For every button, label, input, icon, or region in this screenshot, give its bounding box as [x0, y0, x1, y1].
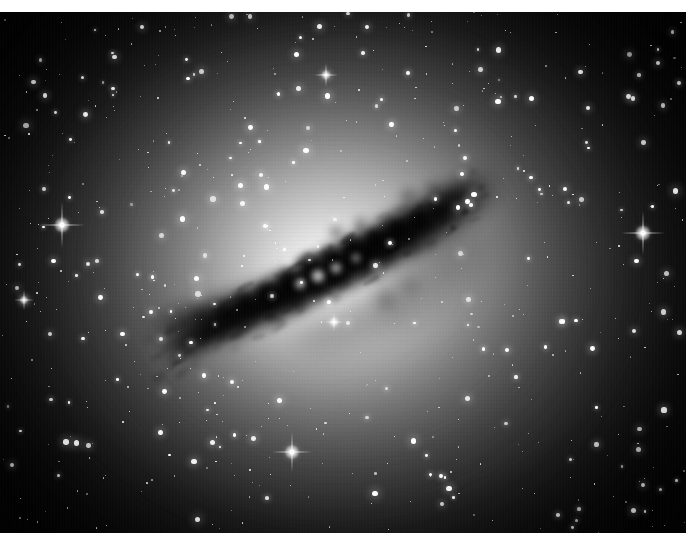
star	[178, 354, 181, 357]
star	[203, 253, 208, 258]
star	[175, 318, 176, 319]
star	[236, 309, 237, 310]
dust-filament	[290, 271, 304, 280]
dust-filament	[151, 371, 167, 383]
star	[263, 224, 267, 228]
diffraction-spike-horizontal	[14, 300, 34, 301]
star	[631, 508, 636, 513]
star	[575, 519, 578, 522]
dust-filament	[461, 197, 478, 211]
star	[387, 463, 388, 464]
star	[3, 459, 4, 460]
star	[96, 527, 98, 529]
star	[312, 38, 314, 40]
star	[116, 91, 117, 92]
star	[435, 254, 436, 255]
star	[495, 99, 500, 104]
halo-layer-3	[208, 158, 460, 374]
star	[621, 465, 623, 467]
star	[180, 216, 186, 222]
star	[602, 72, 603, 73]
star	[671, 30, 675, 34]
dust-filament	[230, 343, 245, 354]
star	[443, 122, 444, 123]
star	[600, 332, 601, 333]
dust-filament	[318, 286, 325, 291]
star	[450, 471, 452, 473]
dust-filament	[323, 255, 341, 265]
star	[7, 405, 10, 408]
star	[174, 284, 175, 285]
star	[673, 188, 679, 194]
star	[136, 273, 139, 276]
star	[458, 251, 463, 256]
star	[675, 479, 678, 482]
star	[609, 248, 610, 249]
star	[434, 197, 437, 200]
dust-blob-4	[387, 219, 405, 237]
star	[661, 103, 665, 107]
dust-filament	[168, 359, 181, 371]
star	[127, 386, 129, 388]
star	[2, 335, 3, 336]
star	[194, 276, 199, 281]
star	[317, 245, 320, 248]
star	[276, 248, 277, 249]
dust-filament	[410, 205, 423, 215]
star	[412, 30, 413, 31]
star	[477, 48, 479, 50]
star	[595, 406, 598, 409]
star	[440, 502, 444, 506]
star	[88, 332, 89, 333]
star	[539, 190, 540, 191]
dust-filament	[223, 307, 238, 314]
star	[666, 426, 668, 428]
star	[670, 98, 672, 100]
star	[579, 197, 584, 202]
star	[270, 294, 274, 298]
star	[522, 451, 523, 452]
star	[264, 184, 269, 189]
dust-filament	[331, 257, 344, 267]
dust-filament	[423, 243, 439, 255]
star	[538, 442, 539, 443]
dust-band-1	[263, 176, 481, 323]
star	[365, 25, 369, 29]
star	[327, 301, 330, 304]
diffraction-spike-vertical	[334, 313, 335, 331]
star	[165, 26, 167, 28]
dust-filament	[217, 333, 226, 342]
star	[248, 125, 253, 130]
star	[661, 407, 666, 412]
star	[527, 257, 530, 260]
star	[162, 424, 163, 425]
star	[477, 326, 479, 328]
bright-knot-2	[295, 279, 305, 289]
star	[180, 358, 181, 359]
star	[569, 458, 572, 461]
star	[618, 434, 619, 435]
star	[48, 165, 49, 166]
dust-filament	[239, 328, 252, 335]
star	[179, 397, 181, 399]
star	[552, 195, 553, 196]
star	[324, 422, 326, 424]
star	[456, 205, 461, 210]
dust-filament	[286, 260, 304, 272]
star	[48, 386, 49, 387]
star	[488, 83, 489, 84]
star	[105, 35, 106, 36]
star	[394, 436, 395, 437]
star	[106, 525, 107, 526]
star	[352, 473, 354, 475]
dust-filament	[197, 341, 211, 349]
star	[510, 32, 511, 33]
dust-filament	[353, 229, 372, 244]
star	[571, 526, 574, 529]
star	[653, 467, 654, 468]
star	[527, 285, 528, 286]
dust-blob-5	[410, 210, 426, 226]
star	[255, 361, 256, 362]
star	[441, 301, 443, 303]
star	[467, 324, 470, 327]
